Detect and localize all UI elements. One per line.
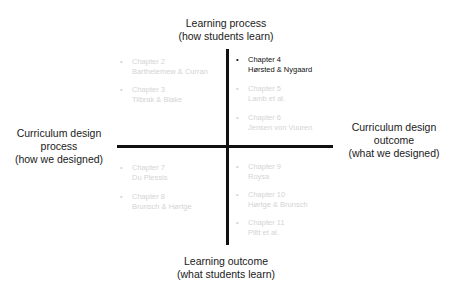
chapter-authors: Roysa [248,172,281,182]
chapter-item: • Chapter 10 Hørtge & Brunsch [236,190,308,210]
chapter-authors: Jensen von Vuuren [248,123,312,133]
chapter-item: • Chapter 9 Roysa [236,162,281,182]
axis-right-line1: Curriculum design [334,121,454,134]
chapter-authors: Brunsch & Hørtge [132,202,192,212]
chapter-title: Chapter 4 [248,55,312,65]
chapter-authors: Hørsted & Nygaard [248,65,312,75]
chapter-title: Chapter 6 [248,113,312,123]
bullet-icon: • [120,192,123,202]
chapter-item: • Chapter 7 Du Plessis [120,163,167,183]
axis-label-right: Curriculum design outcome (what we desig… [334,121,454,160]
axis-label-left: Curriculum design process (how we design… [0,127,118,166]
chapter-authors: Hørtge & Brunsch [248,200,308,210]
axis-right-line3: (what we designed) [334,147,454,160]
chapter-title: Chapter 10 [248,190,308,200]
bullet-icon: • [120,57,123,67]
chapter-item: • Chapter 2 Barthelemew & Curran [120,57,208,77]
axis-top-line2: (how students learn) [150,30,302,43]
chapter-title: Chapter 2 [132,57,208,67]
chapter-authors: Piltt et al. [248,228,285,238]
bullet-icon: • [236,162,239,172]
chapter-item: • Chapter 8 Brunsch & Hørtge [120,192,192,212]
bullet-icon: • [120,163,123,173]
chapter-title: Chapter 11 [248,218,285,228]
chapter-authors: Du Plessis [132,173,167,183]
bullet-icon: • [236,218,239,228]
horizontal-axis-line [117,145,333,148]
chapter-authors: Barthelemew & Curran [132,67,208,77]
chapter-item: • Chapter 11 Piltt et al. [236,218,285,238]
chapter-authors: Lamb et al. [248,94,285,104]
chapter-item: • Chapter 3 Tilbrak & Blake [120,85,182,105]
axis-top-line1: Learning process [150,17,302,30]
chapter-item: • Chapter 5 Lamb et al. [236,84,285,104]
axis-bottom-line1: Learning outcome [150,255,302,268]
bullet-icon: • [120,85,123,95]
chapter-authors: Tilbrak & Blake [132,95,182,105]
chapter-item: • Chapter 4 Hørsted & Nygaard [236,55,312,75]
chapter-title: Chapter 8 [132,192,192,202]
chapter-title: Chapter 3 [132,85,182,95]
bullet-icon: • [236,55,239,65]
chapter-item: • Chapter 6 Jensen von Vuuren [236,113,312,133]
axis-left-line3: (how we designed) [0,153,118,166]
axis-left-line2: process [0,140,118,153]
axis-label-bottom: Learning outcome (what students learn) [150,255,302,281]
chapter-title: Chapter 9 [248,162,281,172]
axis-left-line1: Curriculum design [0,127,118,140]
bullet-icon: • [236,113,239,123]
bullet-icon: • [236,84,239,94]
axis-right-line2: outcome [334,134,454,147]
axis-label-top: Learning process (how students learn) [150,17,302,43]
chapter-title: Chapter 7 [132,163,167,173]
bullet-icon: • [236,190,239,200]
axis-bottom-line2: (what students learn) [150,268,302,281]
chapter-title: Chapter 5 [248,84,285,94]
